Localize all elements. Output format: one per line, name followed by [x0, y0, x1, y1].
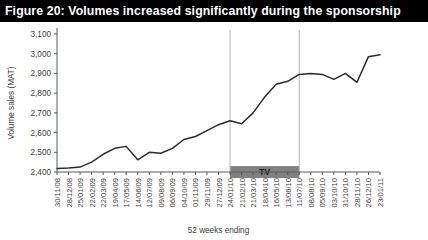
x-axis-tick-label: 03/10/10	[330, 178, 339, 208]
chart-svg: TV 2,4002,5002,6002,7002,8002,9003,0003,…	[0, 22, 428, 240]
data-series-line	[57, 55, 380, 169]
y-axis-tick-label: 2,700	[31, 109, 52, 118]
x-axis-tick-label: 19/04/09	[111, 178, 120, 208]
figure-title: Figure 20: Volumes increased significant…	[0, 4, 401, 18]
x-axis-tick-label: 22/02/09	[88, 178, 97, 208]
y-axis-tick-label: 2,800	[31, 89, 52, 98]
x-axis-tick-label: 04/10/09	[180, 178, 189, 208]
x-axis-tick-label: 21/03/10	[249, 178, 258, 208]
x-axis-tick-label: 28/12/08	[65, 178, 74, 208]
x-axis-tick-label: 17/05/09	[122, 178, 131, 208]
volume-sales-line	[57, 55, 380, 169]
axis-lines	[57, 28, 380, 172]
x-axis-tick-label: 28/11/10	[353, 178, 362, 207]
x-axis-tick-label: 24/01/10	[226, 178, 235, 208]
y-tick-labels: 2,4002,5002,6002,7002,8002,9003,0003,100	[31, 30, 52, 177]
x-axis-tick-label: 23/01/11	[376, 178, 385, 207]
y-axis-tick-label: 3,000	[31, 50, 52, 59]
x-axis-tick-label: 26/12/10	[364, 178, 373, 208]
x-axis-tick-label: 08/08/10	[307, 178, 316, 208]
x-axis-tick-label: 29/11/09	[203, 178, 212, 207]
figure-title-banner: Figure 20: Volumes increased significant…	[0, 0, 428, 22]
y-axis-title: Volume sales (MAT)	[7, 66, 16, 139]
x-axis-tick-label: 12/07/09	[145, 178, 154, 208]
x-axis-tick-label: 22/03/09	[99, 178, 108, 208]
x-axis-tick-label: 25/01/09	[76, 178, 85, 208]
line-chart: TV 2,4002,5002,6002,7002,8002,9003,0003,…	[0, 22, 428, 240]
y-axis-tick-label: 3,100	[31, 30, 52, 39]
x-axis-tick-label: 27/12/09	[215, 178, 224, 208]
figure-container: Figure 20: Volumes increased significant…	[0, 0, 428, 240]
axes	[54, 28, 380, 175]
x-axis-tick-label: 31/10/10	[341, 178, 350, 208]
x-axis-tick-label: 05/09/10	[318, 178, 327, 208]
y-axis-tick-label: 2,400	[31, 168, 52, 177]
reference-lines	[230, 30, 299, 172]
y-axis-tick-label: 2,500	[31, 148, 52, 157]
x-axis-tick-label: 21/02/10	[238, 178, 247, 208]
x-axis-tick-label: 30/11/08	[53, 178, 62, 207]
x-axis-title: 52 weeks ending	[188, 226, 250, 235]
x-axis-tick-label: 16/05/10	[272, 178, 281, 208]
y-axis-tick-label: 2,900	[31, 69, 52, 78]
x-axis-tick-label: 13/06/10	[284, 178, 293, 208]
x-axis-tick-label: 18/04/10	[261, 178, 270, 208]
x-tick-labels: 30/11/0828/12/0825/01/0922/02/0922/03/09…	[53, 178, 385, 208]
x-axis-tick-label: 11/07/10	[295, 178, 304, 207]
x-axis-tick-label: 09/08/09	[157, 178, 166, 208]
x-axis-tick-label: 14/06/09	[134, 178, 143, 208]
x-axis-tick-label: 06/09/09	[168, 178, 177, 208]
y-axis-tick-label: 2,600	[31, 129, 52, 138]
x-axis-tick-label: 01/11/09	[191, 178, 200, 207]
